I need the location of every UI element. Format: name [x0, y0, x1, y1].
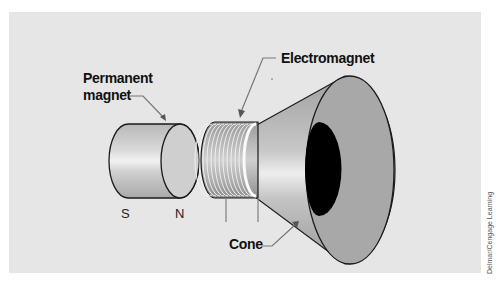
arrowhead-icon [238, 109, 245, 118]
cone-label: Cone [229, 236, 263, 252]
electromagnet-label: Electromagnet [281, 50, 375, 66]
south-pole-label: S [121, 206, 130, 221]
permanent-magnet-label-line2: magnet [83, 87, 132, 103]
permanent-magnet-leader-line [130, 96, 164, 118]
speck [271, 78, 273, 80]
cone-leader-line [261, 224, 296, 246]
image-credit: Delmar/Cengage Learning [486, 192, 493, 274]
permanent-magnet [109, 124, 199, 198]
permanent-magnet-label-line1: Permanent [83, 70, 153, 86]
electromagnet-leader-line [241, 58, 276, 112]
speaker-diagram: S N Permanent magnet Ele [0, 0, 502, 300]
electromagnet-coil [195, 122, 258, 222]
speaker-cone [255, 76, 395, 264]
north-pole-label: N [175, 206, 184, 221]
